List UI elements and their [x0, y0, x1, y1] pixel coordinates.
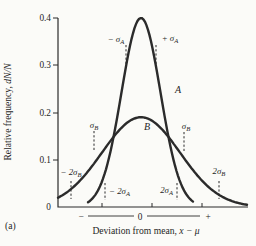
- label-plus-sigma-a: + σA: [162, 33, 179, 44]
- y-tick-label-0.1: 0.1: [39, 155, 51, 165]
- label-plus-2sigma-b: 2σB: [213, 166, 226, 177]
- y-tick-label-0.2: 0.2: [39, 108, 51, 118]
- y-tick-label-0.4: 0.4: [39, 13, 51, 23]
- x-sign-minus: −: [78, 212, 83, 222]
- gaussian-curves-figure: 0.4 0.3 0.2 0.1 0 − σA + σA σB σB − 2σB …: [0, 0, 256, 246]
- y-tick-label-0.3: 0.3: [39, 60, 51, 70]
- label-sigma-b-left: σB: [90, 120, 98, 131]
- label-minus-2sigma-b: − 2σB: [61, 167, 82, 178]
- curve-A: [88, 18, 193, 202]
- chart-canvas: 0.4 0.3 0.2 0.1 0 − σA + σA σB σB − 2σB …: [0, 0, 256, 246]
- x-sign-plus: +: [205, 212, 210, 222]
- label-plus-2sigma-a: 2σA: [160, 185, 174, 196]
- panel-label: (a): [5, 220, 16, 232]
- label-minus-2sigma-a: − 2σA: [109, 186, 131, 197]
- x-axis-title: Deviation from mean, x − μ: [92, 225, 199, 236]
- y-tick-label-0: 0: [46, 202, 51, 212]
- curve-B: [58, 117, 247, 205]
- x-sign-zero: 0: [138, 212, 143, 222]
- label-sigma-b-right: σB: [182, 121, 190, 132]
- label-minus-sigma-a: − σA: [108, 34, 125, 45]
- curve-a-label: A: [174, 84, 182, 95]
- y-axis-title: Relative frequency, dN/N: [2, 63, 13, 161]
- curve-b-label: B: [144, 121, 150, 132]
